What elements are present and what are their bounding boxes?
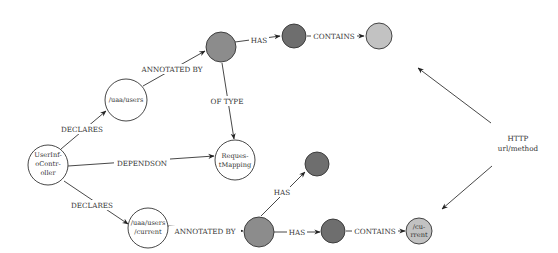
node-label-line: /cu- <box>413 223 425 231</box>
node-current-leaf[interactable]: /cu- rrent <box>406 218 432 244</box>
node-label-line: oller <box>40 169 56 177</box>
label-declares-bottom: DECLARES <box>71 201 113 210</box>
node-label-line: Reques- <box>222 152 249 160</box>
http-label-line2: url/method <box>498 144 539 153</box>
label-dependson: DEPENDSON <box>117 159 167 168</box>
edge-http-top <box>418 68 491 123</box>
label-annotated-top: ANNOTATED BY <box>141 65 203 74</box>
http-annotation: HTTP url/method <box>498 134 539 153</box>
node-contains-top[interactable] <box>366 23 392 49</box>
node-uaa-users[interactable]: /uaa/users <box>105 79 147 121</box>
node-label-line: /current <box>134 228 162 236</box>
label-contains-top: CONTAINS <box>313 32 354 41</box>
node-user-info-controller[interactable]: UserInf- oContr- oller <box>28 145 68 185</box>
edge-http-bottom <box>442 166 492 209</box>
node-has-bottom-up[interactable] <box>305 152 329 176</box>
graph-diagram: DECLARES DEPENDSON DECLARES ANNOTATED BY… <box>0 0 558 253</box>
node-label-line: UserInf- <box>34 151 61 159</box>
label-has-bottom-up: HAS <box>274 188 290 197</box>
label-has-bottom: HAS <box>289 228 305 237</box>
node-annotation-bottom[interactable] <box>244 217 274 247</box>
label-contains-bottom: CONTAINS <box>354 227 395 236</box>
node-label-line: oContr- <box>35 160 60 168</box>
node-label-line: tMapping <box>219 161 252 169</box>
node-label-line: rrent <box>410 231 427 239</box>
node-has-bottom[interactable] <box>321 219 345 243</box>
label-has-top: HAS <box>251 36 267 45</box>
label-declares-top: DECLARES <box>61 125 103 134</box>
node-label: /uaa/users <box>109 96 144 104</box>
node-label-line: /uaa/users <box>131 219 166 227</box>
label-annotated-bottom: ANNOTATED BY <box>174 227 236 236</box>
node-has-top[interactable] <box>282 24 306 48</box>
http-label-line1: HTTP <box>508 134 529 143</box>
node-request-mapping[interactable]: Reques- tMapping <box>215 140 255 180</box>
label-of-type: OF TYPE <box>211 97 244 106</box>
node-annotation-top[interactable] <box>206 32 236 62</box>
node-uaa-users-current[interactable]: /uaa/users /current <box>128 208 168 248</box>
